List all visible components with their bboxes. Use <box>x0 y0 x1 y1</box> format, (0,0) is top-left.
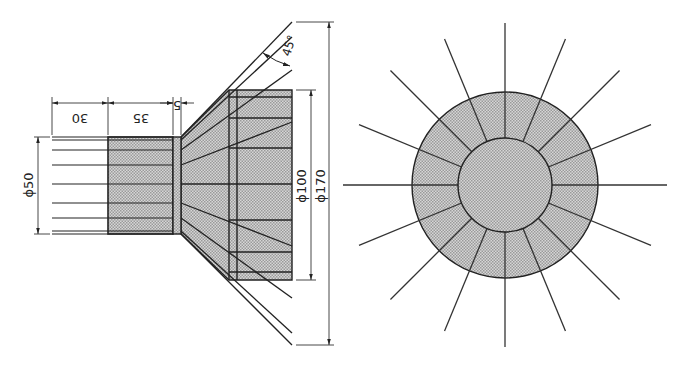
dim-angle-label: 45° <box>279 33 299 58</box>
flange <box>173 137 181 234</box>
dim-35-label: 35 <box>133 111 150 126</box>
dim-30-label: 30 <box>72 111 89 126</box>
tube-body <box>108 137 173 234</box>
dim-phi170-label: ϕ170 <box>313 169 328 202</box>
front-view <box>343 23 667 347</box>
technical-drawing: 30 35 5 ϕ50 ϕ100 ϕ170 45° <box>0 0 690 374</box>
inner-circle <box>458 138 552 232</box>
side-view <box>52 22 292 345</box>
dim-phi50-label: ϕ50 <box>21 172 36 197</box>
dim-phi100-label: ϕ100 <box>294 169 309 202</box>
dim-5-label: 5 <box>173 98 181 113</box>
